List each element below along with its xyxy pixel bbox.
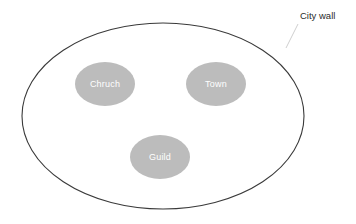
- node-town[interactable]: Town: [186, 62, 246, 106]
- city-wall-ellipse[interactable]: [22, 23, 304, 209]
- guild-label: Guild: [149, 152, 171, 162]
- diagram-svg: Chruch Town Guild City wall: [0, 0, 356, 224]
- city-wall-label: City wall: [300, 10, 335, 21]
- node-church[interactable]: Chruch: [75, 62, 135, 106]
- diagram-canvas: Chruch Town Guild City wall: [0, 0, 356, 224]
- city-wall-leader-line: [286, 24, 298, 48]
- node-guild[interactable]: Guild: [130, 135, 190, 179]
- town-label: Town: [205, 79, 227, 89]
- church-label: Chruch: [90, 79, 120, 89]
